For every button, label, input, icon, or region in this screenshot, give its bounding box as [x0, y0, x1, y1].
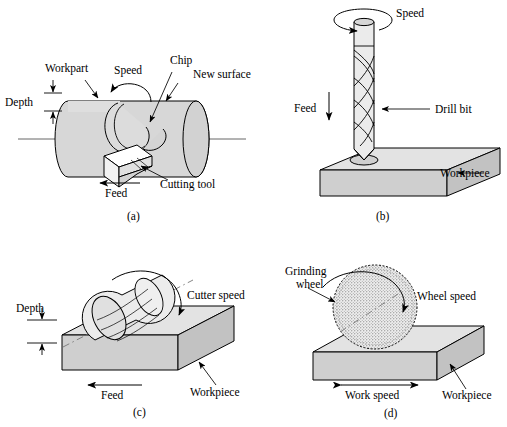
machining-processes-figure: Depth Workpart Speed Chip New surface Fe…	[0, 0, 507, 427]
label-wheel-speed: Wheel speed	[417, 290, 476, 303]
caption-d: (d)	[384, 407, 398, 420]
caption-c: (c)	[133, 406, 146, 419]
label-new-surface: New surface	[193, 68, 251, 80]
label-workpiece-b: Workpiece	[440, 167, 490, 180]
label-workpart: Workpart	[45, 62, 89, 75]
label-grinding-wheel-line1: Grinding	[285, 265, 327, 278]
label-feed-c: Feed	[101, 389, 124, 401]
label-depth-a: Depth	[5, 96, 33, 109]
label-workpiece-c: Workpiece	[190, 386, 240, 399]
figure-root: Depth Workpart Speed Chip New surface Fe…	[0, 0, 507, 427]
label-cutting-tool: Cutting tool	[160, 178, 215, 191]
label-grinding-wheel-line2: wheel	[296, 278, 323, 290]
label-cutter-speed: Cutter speed	[187, 289, 245, 302]
label-drill-bit: Drill bit	[435, 103, 473, 115]
caption-a: (a)	[127, 210, 140, 223]
label-feed-a: Feed	[105, 187, 128, 199]
label-chip: Chip	[170, 54, 193, 67]
label-workpiece-d: Workpiece	[442, 389, 492, 402]
drill-bit	[354, 18, 374, 160]
label-work-speed: Work speed	[345, 389, 400, 402]
label-feed-b: Feed	[294, 102, 317, 114]
label-depth-c: Depth	[16, 302, 44, 315]
caption-b: (b)	[376, 210, 390, 223]
label-speed-b: Speed	[396, 7, 424, 20]
label-speed-a: Speed	[114, 64, 142, 77]
